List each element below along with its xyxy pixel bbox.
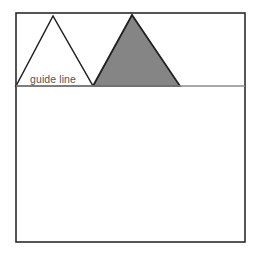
diagram-svg: guide line — [0, 0, 254, 254]
diagram-canvas: guide line — [0, 0, 254, 254]
guide-line-label: guide line — [30, 73, 76, 85]
